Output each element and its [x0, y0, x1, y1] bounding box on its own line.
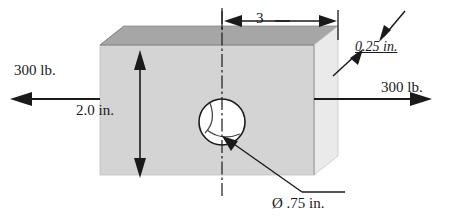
- thickness-dimension-label: 0.25 in.: [355, 40, 397, 54]
- hole-diameter-label: Ø .75 in.: [272, 196, 325, 211]
- arrow-left-icon: [224, 15, 242, 27]
- height-dimension-label: 2.0 in.: [76, 103, 114, 118]
- arrow-right-icon: [319, 15, 337, 27]
- engineering-diagram: 300 lb. 300 lb. 2.0 in. 3 0.25 in. Ø .75…: [0, 0, 452, 221]
- block-right-face: [314, 26, 338, 175]
- force-label-right: 300 lb.: [381, 80, 423, 95]
- length-dimension-label: 3: [256, 11, 264, 26]
- diagram-canvas: [0, 0, 452, 221]
- block-top-face: [100, 26, 338, 45]
- force-label-left: 300 lb.: [14, 63, 56, 78]
